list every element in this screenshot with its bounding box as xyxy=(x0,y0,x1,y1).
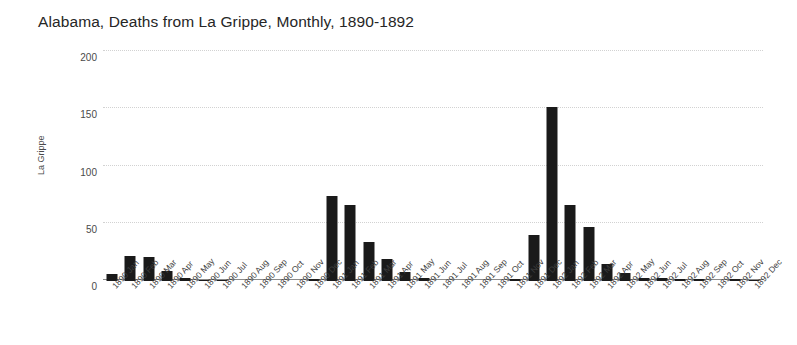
bar-slot xyxy=(543,52,561,281)
bar-slot xyxy=(671,52,689,281)
bar-slot xyxy=(580,52,598,281)
bar-slot xyxy=(341,52,359,281)
x-axis-ticks: 1890 Jan1890 Feb1890 Mar1890 Apr1890 May… xyxy=(103,284,763,345)
page-title: Alabama, Deaths from La Grippe, Monthly,… xyxy=(38,13,414,31)
bar-series xyxy=(103,52,763,281)
bar-slot xyxy=(268,52,286,281)
bar-slot xyxy=(525,52,543,281)
bar-slot xyxy=(231,52,249,281)
bar-slot xyxy=(726,52,744,281)
bar-slot xyxy=(396,52,414,281)
bar-slot xyxy=(121,52,139,281)
bar-slot xyxy=(360,52,378,281)
bar-slot xyxy=(213,52,231,281)
bar-slot xyxy=(506,52,524,281)
y-axis-title: La Grippe xyxy=(36,135,46,175)
bar xyxy=(547,107,558,281)
chart-page: Alabama, Deaths from La Grippe, Monthly,… xyxy=(0,0,797,345)
bar-slot xyxy=(378,52,396,281)
bar-slot xyxy=(745,52,763,281)
bar-slot xyxy=(451,52,469,281)
bar-slot xyxy=(653,52,671,281)
bar-slot xyxy=(616,52,634,281)
plot-area xyxy=(103,52,763,281)
bar-slot xyxy=(598,52,616,281)
bar-slot xyxy=(250,52,268,281)
bar-slot xyxy=(433,52,451,281)
bar-slot xyxy=(708,52,726,281)
bar-slot xyxy=(286,52,304,281)
y-axis-ticks: 050100150200 xyxy=(55,52,97,281)
bar-slot xyxy=(470,52,488,281)
bar-slot xyxy=(415,52,433,281)
bar-slot xyxy=(323,52,341,281)
bar-slot xyxy=(690,52,708,281)
bar-slot xyxy=(635,52,653,281)
bar-slot xyxy=(305,52,323,281)
bar-slot xyxy=(103,52,121,281)
bar-slot xyxy=(488,52,506,281)
bar-slot xyxy=(561,52,579,281)
bar-slot xyxy=(158,52,176,281)
bar-slot xyxy=(176,52,194,281)
bar-slot xyxy=(195,52,213,281)
bar-slot xyxy=(140,52,158,281)
